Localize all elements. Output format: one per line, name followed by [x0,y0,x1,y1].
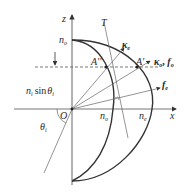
n-o-x-label: no [100,111,108,122]
A-prime-label: A' [136,57,144,67]
theta-subscript: i [45,127,47,133]
kappa-subscript: e [127,45,130,51]
n-e-x-label: ne [139,111,147,122]
boundary-value-label: nisinθi [26,86,54,97]
origin-point [71,108,74,111]
tangent-label: T [101,18,107,28]
diagram-canvas [0,0,190,194]
f-e-label: fe [162,80,168,91]
kappa-e-label: κe [122,40,130,51]
n-subscript: i [31,91,33,97]
incidence-angle-label: θi [40,122,47,133]
n-subscript: o [64,40,67,46]
n-subscript: o [105,116,108,122]
origin-label: O [60,111,67,121]
x-axis-label: x [170,111,174,121]
ray-f-e [72,88,160,109]
z-axis-label: z [62,14,66,24]
A-double-prime-label: A'' [91,57,101,67]
kappa-o-f-o-label: κo, fo [154,57,174,68]
f-subscript: e [165,85,168,91]
theta-subscript: i [52,91,54,97]
ray-kappa-o [72,61,150,109]
incident-ray [44,109,72,173]
n-subscript: e [144,116,147,122]
n-o-z-label: no [59,35,67,46]
point-A-double-prime [104,65,107,68]
f-subscript: o [171,62,174,68]
sin-function: sin [35,85,47,96]
